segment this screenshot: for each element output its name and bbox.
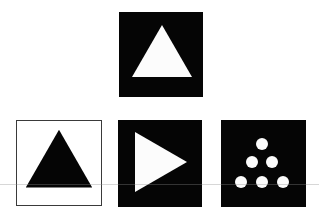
dot-triangle-icon	[221, 120, 306, 207]
option-b-card[interactable]	[118, 120, 202, 207]
dot	[256, 138, 268, 150]
triangle-right-shape	[135, 132, 187, 192]
option-a-card[interactable]	[16, 120, 102, 206]
black-triangle-icon	[17, 121, 101, 205]
dot	[256, 176, 268, 188]
triangle-up-shape	[26, 130, 92, 188]
triangle-up-shape	[132, 25, 192, 77]
dot	[277, 176, 289, 188]
dot	[246, 156, 258, 168]
stimulus-white-triangle-icon	[119, 12, 203, 97]
stimulus-card	[119, 12, 203, 97]
right-triangle-icon	[118, 120, 202, 207]
dot	[266, 156, 278, 168]
dot	[235, 176, 247, 188]
option-c-card[interactable]	[221, 120, 306, 207]
